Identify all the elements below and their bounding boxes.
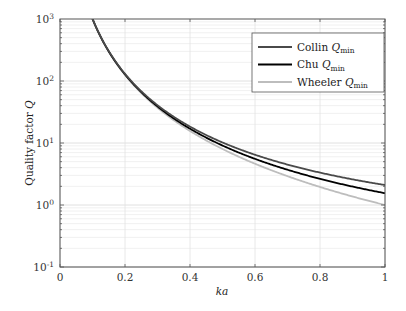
x-axis-label: ka xyxy=(216,285,229,297)
x-tick-label: 0 xyxy=(57,271,64,283)
y-tick-labels: 10-1100101102103 xyxy=(33,12,54,273)
x-tick-label: 0.4 xyxy=(182,271,199,283)
y-tick-label: 10-1 xyxy=(33,260,54,273)
x-tick-label: 0.6 xyxy=(247,271,264,283)
x-tick-labels: 00.20.40.60.81 xyxy=(57,271,389,283)
y-axis-label-text: Quality factor xyxy=(23,109,35,186)
y-axis-label: Quality factor Q xyxy=(23,100,36,186)
y-tick-label: 102 xyxy=(36,74,54,87)
y-axis-label-q: Q xyxy=(23,100,36,109)
chart: 00.20.40.60.81 10-1100101102103 ka Quali… xyxy=(0,0,406,311)
series-line xyxy=(86,1,385,205)
series-line xyxy=(86,1,385,193)
x-tick-label: 0.8 xyxy=(312,271,329,283)
x-tick-label: 0.2 xyxy=(117,271,134,283)
y-tick-label: 100 xyxy=(36,198,54,211)
y-tick-label: 101 xyxy=(36,136,54,149)
y-tick-label: 103 xyxy=(36,12,54,25)
curves xyxy=(86,1,385,205)
x-tick-label: 1 xyxy=(382,271,389,283)
legend: Collin QminChu QminWheeler Qmin xyxy=(252,33,384,92)
